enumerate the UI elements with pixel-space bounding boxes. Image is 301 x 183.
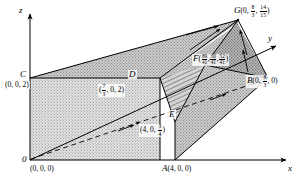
vertex-G-dot — [237, 19, 239, 21]
point-E-coords: (4, 0, 34) — [139, 124, 166, 137]
point-D-label: D — [128, 70, 137, 79]
shaded-regions — [30, 20, 268, 160]
vertex-markers — [237, 19, 239, 21]
origin-label: 0 — [22, 155, 27, 164]
y-axis-label: y — [268, 34, 272, 43]
point-F-z-fraction: 5241 — [219, 54, 225, 66]
point-F-y-fraction: 5041 — [210, 54, 216, 66]
z-axis-label: z — [19, 6, 23, 15]
point-B-label: B(0, 83, 0) — [246, 75, 278, 88]
point-A-label: A((4, 0, 0)4, 0, 0) — [161, 164, 192, 173]
region-base-light — [30, 78, 160, 160]
point-C-coords: (0, 0, 2) — [4, 81, 30, 89]
point-E-label: E — [168, 110, 176, 119]
point-G-label: G(0, 83, 1415) — [234, 5, 270, 18]
point-D-coords: (73, 0, 2) — [98, 84, 125, 97]
point-G-z-fraction: 1415 — [260, 5, 267, 18]
point-F-x-fraction: 8941 — [202, 54, 208, 66]
point-C-label: C — [20, 70, 26, 79]
x-axis-label: x — [288, 164, 292, 173]
origin-coords: (0, 0, 0) — [30, 165, 54, 173]
point-F-label: F(8941,5041,5241) — [192, 54, 229, 66]
three-dimensional-region-figure — [0, 0, 301, 183]
